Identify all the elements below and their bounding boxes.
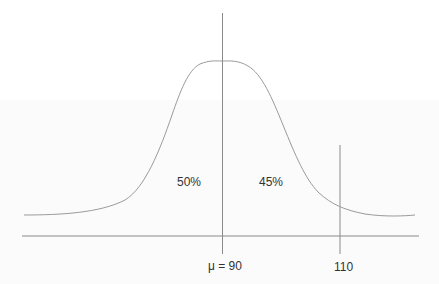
mean-value-label: μ = 90: [208, 259, 242, 273]
figure-canvas: 50% 45% μ = 90 110: [0, 0, 439, 284]
middle-area-percent-label: 45%: [259, 175, 283, 189]
x-value-110-label: 110: [334, 260, 353, 274]
normal-curve-diagram: [0, 0, 439, 284]
bell-curve: [24, 61, 415, 216]
left-area-percent-label: 50%: [177, 175, 201, 189]
